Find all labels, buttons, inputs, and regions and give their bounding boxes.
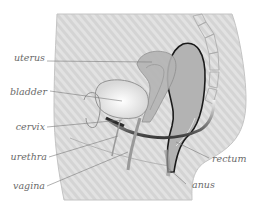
label-uterus: uterus (14, 52, 45, 63)
label-rectum: rectum (212, 153, 246, 164)
anatomy-diagram: uterus bladder cervix urethra vagina rec… (0, 0, 257, 213)
label-cervix: cervix (16, 121, 46, 132)
label-anus: anus (192, 179, 215, 190)
label-bladder: bladder (10, 86, 49, 97)
label-vagina: vagina (13, 180, 45, 191)
label-urethra: urethra (11, 151, 48, 162)
